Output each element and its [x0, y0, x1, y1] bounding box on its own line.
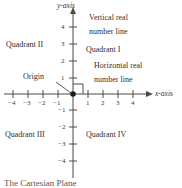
origin-point [70, 91, 76, 97]
vertical-number-line-note-line1: Vertical real [89, 14, 128, 22]
horizontal-number-line-note-line2: number line [94, 76, 132, 84]
quadrant-1-label: Quadrant I [86, 46, 120, 54]
figure-caption: The Cartesian Plane [4, 179, 76, 188]
y-tick-label-neg4: −4 [58, 158, 65, 165]
y-tick-label-neg3: −3 [58, 141, 65, 148]
vertical-number-line-note-line2: number line [89, 28, 127, 36]
quadrant-2-label: Quadrant II [6, 41, 43, 49]
horizontal-number-line-note-line1: Horizontal real [94, 62, 142, 70]
y-tick-label-1: 1 [61, 75, 65, 82]
x-tick-label-1: 1 [86, 100, 90, 107]
x-axis-label: x-axis [155, 90, 173, 98]
quadrant-4-label: Quadrant IV [86, 131, 126, 139]
origin-label: Origin [23, 73, 44, 81]
x-tick-label-4: 4 [131, 100, 135, 107]
y-tick-label-4: 4 [61, 24, 65, 31]
x-tick-label-neg2: −2 [38, 100, 45, 107]
y-tick-label-neg1: −1 [58, 107, 65, 114]
x-tick-label-neg3: −3 [23, 100, 30, 107]
y-tick-label-neg2: −2 [58, 124, 65, 131]
quadrant-3-label: Quadrant III [5, 131, 45, 139]
x-tick-label-3: 3 [116, 100, 120, 107]
x-tick-label-2: 2 [101, 100, 105, 107]
x-axis-line [4, 91, 153, 97]
cartesian-plane-figure: y-axis x-axis Vertical real number line … [0, 0, 182, 188]
x-tick-label-neg4: −4 [8, 100, 15, 107]
y-axis-label: y-axis [57, 2, 75, 10]
y-tick-label-2: 2 [61, 58, 65, 65]
y-tick-label-3: 3 [61, 41, 65, 48]
